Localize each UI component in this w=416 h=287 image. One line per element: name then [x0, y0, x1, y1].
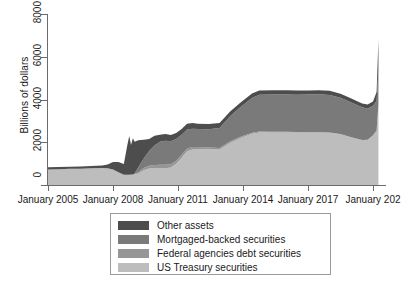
- legend-swatch: [118, 221, 149, 230]
- y-axis-tick-label: 8000: [33, 1, 43, 35]
- legend-swatch: [118, 235, 149, 244]
- x-axis-tick-label: January 2011: [148, 194, 208, 206]
- x-axis-tick: [48, 186, 49, 191]
- legend-swatch: [118, 263, 149, 272]
- legend: Other assetsMortgaged-backed securitiesF…: [110, 213, 331, 275]
- legend-item: US Treasury securities: [118, 260, 330, 274]
- x-axis-tick: [113, 186, 114, 191]
- y-axis-tick-label: 2000: [33, 129, 43, 163]
- y-axis-ticks: 02000400060008000: [0, 0, 48, 287]
- legend-swatch: [118, 249, 149, 258]
- legend-item: Other assets: [118, 218, 330, 232]
- x-axis-tick: [308, 186, 309, 191]
- x-axis-line: [47, 185, 386, 186]
- x-axis-tick-label: January 202: [345, 194, 400, 206]
- legend-label: Federal agencies debt securities: [157, 248, 301, 259]
- plot-area: [48, 14, 385, 185]
- stacked-area-series: [48, 14, 385, 185]
- legend-item: Mortgaged-backed securities: [118, 232, 330, 246]
- x-axis-labels: January 2005January 2008January 2011Janu…: [0, 194, 416, 208]
- x-axis-tick-label: January 2005: [18, 194, 79, 206]
- x-axis-tick-label: January 2008: [83, 194, 144, 206]
- legend-label: US Treasury securities: [157, 262, 258, 273]
- legend-label: Mortgaged-backed securities: [157, 234, 285, 245]
- y-axis-tick-label: 6000: [33, 44, 43, 78]
- y-axis-tick-label: 4000: [33, 87, 43, 121]
- x-axis-tick: [178, 186, 179, 191]
- legend-item: Federal agencies debt securities: [118, 246, 330, 260]
- chart-root: Billions of dollars 02000400060008000 Ja…: [0, 0, 416, 287]
- x-axis-tick: [243, 186, 244, 191]
- x-axis-tick-label: January 2014: [213, 194, 274, 206]
- x-axis-tick: [373, 186, 374, 191]
- legend-label: Other assets: [157, 220, 214, 231]
- x-axis-tick-label: January 2017: [278, 194, 339, 206]
